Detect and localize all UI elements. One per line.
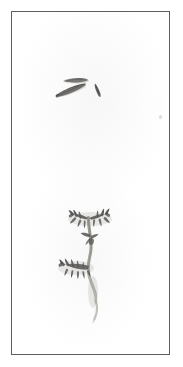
specimen-frame: [11, 11, 170, 355]
lower-specimen-plant: [12, 12, 170, 355]
specimen-sheet: [0, 0, 183, 367]
mid-leaflet: [81, 233, 99, 246]
